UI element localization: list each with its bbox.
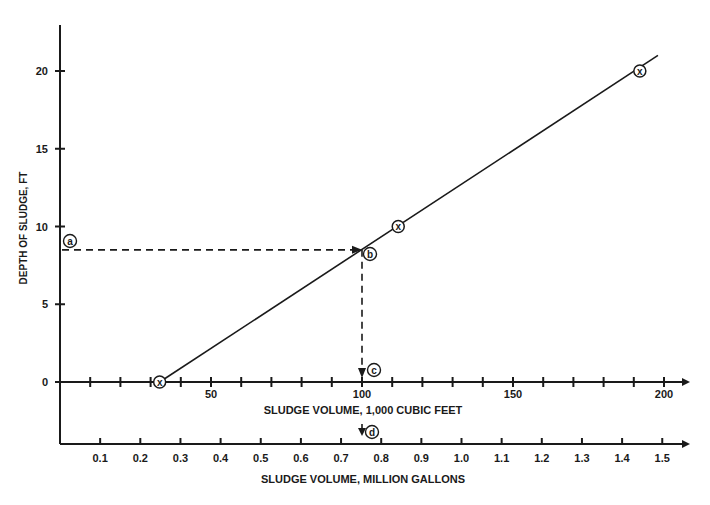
sludge-depth-chart: 05101520 50100150200 0.10.20.30.40.50.60… xyxy=(0,0,710,505)
x-axis-arrow-icon xyxy=(682,378,690,386)
x-tick-label: 100 xyxy=(353,388,371,400)
x2-tick-label: 0.5 xyxy=(253,452,268,464)
y-tick-label: 5 xyxy=(42,298,48,310)
x2-tick-label: 0.3 xyxy=(173,452,188,464)
trend-line xyxy=(160,55,658,382)
x2-tick-label: 1.3 xyxy=(574,452,589,464)
x2-tick-label: 0.1 xyxy=(93,452,108,464)
data-series: xxx xyxy=(154,55,658,388)
circled-x-marker-icon: x xyxy=(154,376,166,388)
x2-tick-label: 0.6 xyxy=(293,452,308,464)
x2-tick-label: 0.4 xyxy=(213,452,229,464)
annotation-d-icon: d xyxy=(366,426,379,439)
svg-text:c: c xyxy=(371,365,377,376)
x2-axis-arrow-icon xyxy=(682,440,690,448)
svg-text:x: x xyxy=(637,66,643,77)
x2-tick-label: 0.2 xyxy=(133,452,148,464)
x-axis-label: SLUDGE VOLUME, 1,000 CUBIC FEET xyxy=(264,404,463,416)
y-tick-label: 15 xyxy=(36,143,48,155)
annotation-a-icon: a xyxy=(64,235,77,248)
x2-tick-label: 1.5 xyxy=(655,452,670,464)
svg-text:b: b xyxy=(367,249,373,260)
svg-text:x: x xyxy=(395,221,401,232)
svg-text:a: a xyxy=(67,236,73,247)
x2-tick-label: 1.2 xyxy=(534,452,549,464)
y-axis-label: DEPTH OF SLUDGE, FT xyxy=(18,172,29,285)
x-tick-label: 150 xyxy=(504,388,522,400)
x2-ticks: 0.10.20.30.40.50.60.70.80.91.01.11.21.31… xyxy=(93,438,670,464)
x2-tick-label: 1.4 xyxy=(614,452,630,464)
x2-tick-label: 0.7 xyxy=(333,452,348,464)
x2-tick-label: 1.0 xyxy=(454,452,469,464)
circled-x-marker-icon: x xyxy=(634,65,646,77)
svg-text:d: d xyxy=(369,427,375,438)
x-tick-label: 50 xyxy=(205,388,217,400)
x-tick-label: 200 xyxy=(655,388,673,400)
arrow-down-icon xyxy=(358,428,366,436)
x-ticks: 50100150200 xyxy=(90,377,673,400)
arrow-down-icon xyxy=(358,368,366,378)
y-tick-label: 0 xyxy=(42,376,48,388)
circled-x-marker-icon: x xyxy=(392,221,404,233)
x2-axis-label: SLUDGE VOLUME, MILLION GALLONS xyxy=(261,473,465,485)
x2-tick-label: 1.1 xyxy=(494,452,509,464)
annotation-b-icon: b xyxy=(364,248,377,261)
x2-tick-label: 0.9 xyxy=(414,452,429,464)
svg-text:x: x xyxy=(157,377,163,388)
annotation-c-icon: c xyxy=(368,364,381,377)
x2-tick-label: 0.8 xyxy=(374,452,389,464)
y-tick-label: 10 xyxy=(36,221,48,233)
y-tick-label: 20 xyxy=(36,65,48,77)
